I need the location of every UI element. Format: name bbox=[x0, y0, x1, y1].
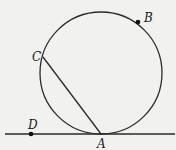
label-a: A bbox=[96, 137, 106, 150]
label-b: B bbox=[143, 11, 153, 25]
circle bbox=[40, 12, 162, 134]
point-d-dot bbox=[29, 132, 34, 137]
label-c: C bbox=[32, 50, 41, 64]
label-d: D bbox=[27, 118, 38, 132]
chord-ca bbox=[43, 57, 101, 134]
point-b-dot bbox=[136, 20, 141, 25]
geometry-diagram: A B C D bbox=[0, 0, 176, 150]
diagram-svg: A B C D bbox=[0, 0, 176, 150]
